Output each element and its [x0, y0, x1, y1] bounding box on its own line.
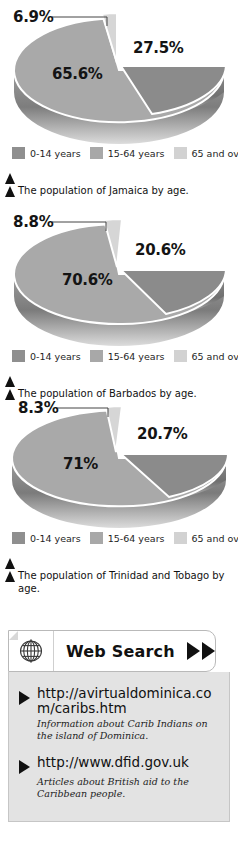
- legend-trinidad: 0-14 years 15-64 years 65 and over: [0, 532, 238, 544]
- web-search-header[interactable]: Web Search: [8, 630, 216, 672]
- caption-jamaica: The population of Jamaica by age.: [0, 185, 238, 198]
- triangle-icon: [5, 571, 15, 582]
- legend-label-15-64: 15-64 years: [108, 148, 165, 159]
- web-search-link[interactable]: http://www.dfid.gov.uk: [19, 755, 219, 774]
- pie-jamaica-label-0-14: 27.5%: [133, 39, 184, 57]
- arrow-right-icon: [19, 691, 30, 705]
- web-search-entry: http://avirtualdominica.com/caribs.htm I…: [19, 686, 219, 741]
- legend-item-15-64: 15-64 years: [90, 147, 165, 159]
- pie-barbados: 8.8% 20.6% 70.6%: [0, 208, 238, 348]
- web-search-panel: Web Search http://avirtualdominica.com/c…: [8, 630, 230, 822]
- double-right-arrow-icon[interactable]: [187, 642, 215, 660]
- pie-jamaica: 6.9% 27.5% 65.6%: [0, 0, 238, 145]
- globe-icon-svg: [18, 638, 44, 664]
- pie-trinidad-svg: [0, 398, 238, 528]
- web-search-link[interactable]: http://avirtualdominica.com/caribs.htm: [19, 686, 219, 716]
- legend-label-65-over: 65 and over: [192, 351, 238, 362]
- arrow-right-icon: [19, 760, 30, 774]
- legend-swatch-0-14: [12, 532, 25, 544]
- legend-swatch-65-over: [174, 147, 187, 159]
- legend-label-65-over: 65 and over: [192, 533, 238, 544]
- pie-jamaica-label-65-over: 6.9%: [13, 8, 53, 26]
- chart-trinidad: 8.3% 20.7% 71% 0-14 years 15-64 years 65…: [0, 398, 238, 595]
- web-search-url[interactable]: http://www.dfid.gov.uk: [37, 755, 189, 770]
- chart-barbados: 8.8% 20.6% 70.6% 0-14 years 15-64 years …: [0, 208, 238, 401]
- textbook-page: 6.9% 27.5% 65.6% 0-14 years 15-64 years …: [0, 0, 238, 843]
- web-search-results: http://avirtualdominica.com/caribs.htm I…: [8, 672, 230, 822]
- triangle-icon: [5, 173, 15, 184]
- pie-barbados-label-65-over: 8.8%: [13, 213, 53, 231]
- chart-jamaica: 6.9% 27.5% 65.6% 0-14 years 15-64 years …: [0, 0, 238, 198]
- legend-swatch-15-64: [90, 350, 103, 362]
- legend-barbados: 0-14 years 15-64 years 65 and over: [0, 350, 238, 362]
- web-search-description: Articles about British aid to the Caribb…: [37, 776, 219, 799]
- legend-item-65-over: 65 and over: [174, 350, 238, 362]
- legend-swatch-15-64: [90, 147, 103, 159]
- web-search-url[interactable]: http://avirtualdominica.com/caribs.htm: [37, 686, 219, 716]
- pie-trinidad-label-0-14: 20.7%: [137, 425, 188, 443]
- caption-marker-trinidad: [5, 558, 16, 584]
- caption-trinidad: The population of Trinidad and Tobago by…: [0, 570, 238, 595]
- legend-item-15-64: 15-64 years: [90, 532, 165, 544]
- legend-swatch-0-14: [12, 350, 25, 362]
- legend-item-0-14: 0-14 years: [12, 350, 81, 362]
- legend-label-0-14: 0-14 years: [30, 148, 81, 159]
- web-search-description: Information about Carib Indians on the i…: [37, 718, 219, 741]
- legend-item-0-14: 0-14 years: [12, 532, 81, 544]
- legend-item-0-14: 0-14 years: [12, 147, 81, 159]
- pie-jamaica-label-15-64: 65.6%: [52, 65, 103, 83]
- pie-barbados-label-15-64: 70.6%: [62, 271, 113, 289]
- legend-item-65-over: 65 and over: [174, 147, 238, 159]
- pie-trinidad-label-15-64: 71%: [63, 455, 98, 473]
- legend-label-0-14: 0-14 years: [30, 533, 81, 544]
- legend-label-15-64: 15-64 years: [108, 351, 165, 362]
- triangle-icon: [5, 558, 15, 569]
- legend-jamaica: 0-14 years 15-64 years 65 and over: [0, 147, 238, 159]
- caption-marker-jamaica: [5, 173, 16, 199]
- legend-item-65-over: 65 and over: [174, 532, 238, 544]
- folded-corner-icon: [9, 631, 18, 640]
- caption-text-jamaica: The population of Jamaica by age.: [18, 185, 189, 196]
- legend-item-15-64: 15-64 years: [90, 350, 165, 362]
- legend-swatch-0-14: [12, 147, 25, 159]
- pie-barbados-label-0-14: 20.6%: [135, 241, 186, 259]
- legend-label-15-64: 15-64 years: [108, 533, 165, 544]
- legend-swatch-15-64: [90, 532, 103, 544]
- pie-trinidad: 8.3% 20.7% 71%: [0, 398, 238, 528]
- legend-swatch-65-over: [174, 532, 187, 544]
- pie-trinidad-label-65-over: 8.3%: [18, 399, 58, 417]
- web-search-title: Web Search: [66, 642, 175, 661]
- triangle-icon: [5, 186, 15, 197]
- web-search-entry: http://www.dfid.gov.uk Articles about Br…: [19, 755, 219, 799]
- legend-label-0-14: 0-14 years: [30, 351, 81, 362]
- legend-swatch-65-over: [174, 350, 187, 362]
- caption-text-trinidad: The population of Trinidad and Tobago by…: [18, 570, 225, 594]
- arrow-right-icon: [187, 642, 200, 660]
- triangle-icon: [5, 376, 15, 387]
- arrow-right-icon: [202, 642, 215, 660]
- legend-label-65-over: 65 and over: [192, 148, 238, 159]
